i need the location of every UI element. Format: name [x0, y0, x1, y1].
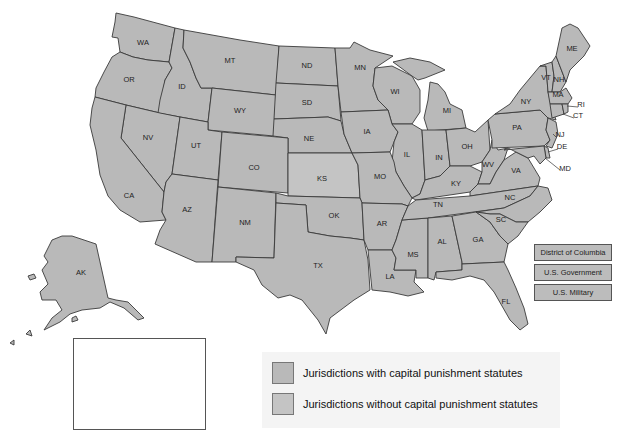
legend-label-with: Jurisdictions with capital punishment st…	[303, 367, 523, 379]
state-label-sd: SD	[302, 98, 313, 107]
state-label-in: IN	[435, 153, 443, 162]
state-label-fl: FL	[502, 297, 511, 306]
state-label-wv: WV	[482, 160, 494, 169]
state-label-ny: NY	[521, 97, 531, 106]
state-label-nd: ND	[302, 61, 313, 70]
state-label-mi: MI	[443, 106, 451, 115]
map-legend: Jurisdictions with capital punishment st…	[262, 352, 560, 428]
state-label-il: IL	[404, 150, 410, 159]
state-label-ak: AK	[76, 268, 86, 277]
state-label-tx: TX	[313, 261, 323, 270]
state-label-nc: NC	[505, 193, 516, 202]
state-label-ri: RI	[577, 100, 585, 109]
state-label-mn: MN	[354, 63, 366, 72]
state-label-ut: UT	[191, 141, 201, 150]
legend-swatch-with	[272, 362, 294, 384]
state-label-ky: KY	[451, 179, 461, 188]
state-label-ca: CA	[124, 191, 134, 200]
district-of-columbia-box: District of Columbia	[534, 244, 612, 261]
state-label-az: AZ	[182, 205, 192, 214]
state-label-or: OR	[123, 75, 135, 84]
state-label-id: ID	[178, 82, 186, 91]
state-ct[interactable]	[550, 104, 564, 118]
legend-item-without: Jurisdictions without capital punishment…	[272, 393, 538, 415]
legend-swatch-without	[272, 393, 294, 415]
state-label-wi: WI	[390, 87, 399, 96]
state-label-ms: MS	[407, 250, 418, 259]
state-label-me: ME	[566, 44, 577, 53]
state-ak[interactable]	[40, 236, 144, 330]
legend-item-with: Jurisdictions with capital punishment st…	[272, 362, 523, 384]
state-label-vt: VT	[541, 73, 551, 82]
state-label-md: MD	[559, 164, 571, 173]
state-label-mt: MT	[225, 56, 236, 65]
state-label-pa: PA	[512, 123, 521, 132]
hawaii-inset	[73, 338, 206, 430]
state-label-ne: NE	[304, 134, 314, 143]
state-label-wa: WA	[137, 38, 149, 47]
state-label-nh: NH	[554, 75, 565, 84]
state-label-co: CO	[248, 163, 259, 172]
state-fl[interactable]	[436, 262, 528, 330]
state-label-ks: KS	[317, 174, 327, 183]
state-label-ga: GA	[473, 235, 484, 244]
state-label-nj: NJ	[555, 130, 564, 139]
us-military-box: U.S. Military	[534, 284, 612, 301]
state-label-al: AL	[437, 237, 446, 246]
state-label-wy: WY	[234, 106, 246, 115]
state-label-de: DE	[557, 142, 567, 151]
state-label-ct: CT	[573, 111, 583, 120]
state-label-la: LA	[385, 272, 394, 281]
state-label-mo: MO	[374, 172, 386, 181]
state-label-nm: NM	[239, 218, 251, 227]
state-label-ar: AR	[377, 219, 388, 228]
us-government-box: U.S. Government	[534, 264, 612, 281]
state-label-nv: NV	[143, 133, 153, 142]
legend-label-without: Jurisdictions without capital punishment…	[303, 398, 538, 410]
state-label-ma: MA	[552, 90, 563, 99]
state-label-ia: IA	[363, 127, 370, 136]
state-label-ok: OK	[329, 211, 340, 220]
state-label-va: VA	[511, 166, 520, 175]
state-label-oh: OH	[461, 142, 472, 151]
state-shapes	[10, 13, 590, 345]
state-label-sc: SC	[496, 215, 507, 224]
state-label-tn: TN	[433, 200, 443, 209]
